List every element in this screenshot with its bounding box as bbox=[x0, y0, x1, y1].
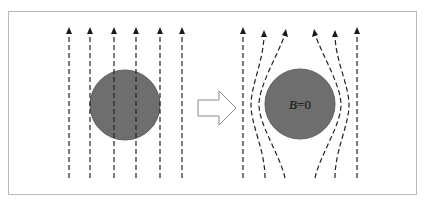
arrowheads bbox=[240, 27, 360, 37]
left-panel-normal-state bbox=[66, 27, 185, 178]
arrow-up-icon bbox=[332, 30, 338, 37]
field-line bbox=[335, 34, 349, 178]
arrow-up-icon bbox=[87, 27, 93, 34]
diagram-canvas: B=0 bbox=[0, 0, 424, 202]
arrow-up-icon bbox=[240, 27, 246, 34]
arrow-up-icon bbox=[312, 29, 318, 37]
arrowheads bbox=[66, 27, 185, 34]
arrow-up-icon bbox=[66, 27, 72, 34]
arrow-up-icon bbox=[282, 29, 288, 37]
field-label: B=0 bbox=[289, 97, 311, 112]
normal-sphere bbox=[90, 70, 160, 140]
arrow-up-icon bbox=[111, 27, 117, 34]
arrow-up-icon bbox=[354, 27, 360, 34]
arrow-up-icon bbox=[261, 30, 267, 37]
transition-arrow-icon bbox=[198, 91, 236, 125]
field-line bbox=[251, 34, 265, 178]
meissner-effect-diagram: B=0 bbox=[0, 0, 424, 202]
arrow-up-icon bbox=[157, 27, 163, 34]
arrow-up-icon bbox=[179, 27, 185, 34]
right-panel-superconducting-state: B=0 bbox=[240, 27, 360, 178]
arrow-up-icon bbox=[133, 27, 139, 34]
